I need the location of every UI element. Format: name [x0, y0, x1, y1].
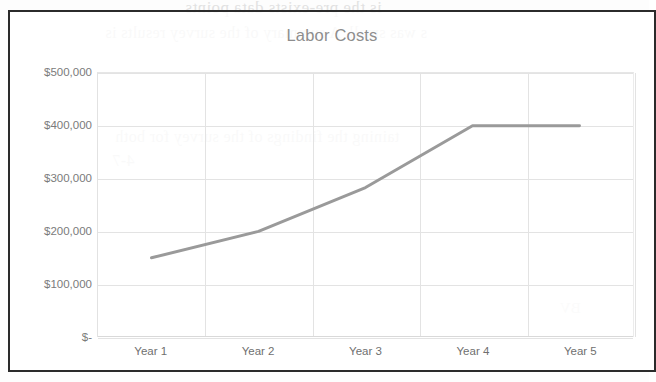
series-polyline	[152, 126, 580, 258]
y-axis-tick-label: $200,000	[14, 225, 92, 237]
chart-inner-area: Labor Costs $-$100,000$200,000$300,000$4…	[10, 12, 654, 370]
x-axis-tick-label: Year 4	[456, 345, 489, 357]
y-axis-tick-label: $400,000	[14, 119, 92, 131]
y-axis-tick-label: $100,000	[14, 278, 92, 290]
gridline-vertical	[635, 73, 636, 337]
y-axis-tick-labels: $-$100,000$200,000$300,000$400,000$500,0…	[10, 72, 92, 337]
x-axis-tick-label: Year 5	[564, 345, 597, 357]
y-axis-tick-label: $500,000	[14, 66, 92, 78]
gridline-horizontal	[98, 338, 633, 339]
x-axis-tick-label: Year 2	[242, 345, 275, 357]
plot-area	[97, 72, 634, 337]
chart-title: Labor Costs	[10, 26, 654, 45]
x-axis-tick-labels: Year 1Year 2Year 3Year 4Year 5	[97, 345, 634, 369]
y-axis-tick-label: $-	[14, 331, 92, 343]
x-axis-tick-label: Year 1	[134, 345, 167, 357]
chart-object-frame[interactable]: Labor Costs $-$100,000$200,000$300,000$4…	[8, 10, 656, 372]
y-axis-tick-label: $300,000	[14, 172, 92, 184]
x-axis-tick-label: Year 3	[349, 345, 382, 357]
series-line-labor-costs	[98, 73, 633, 337]
